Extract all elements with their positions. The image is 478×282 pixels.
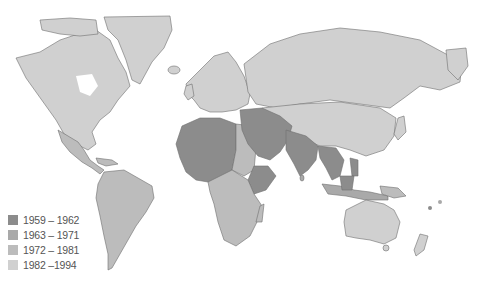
region-borneo (340, 176, 354, 190)
region-indonesia (322, 184, 388, 200)
legend-item-1959-1962: 1959 – 1962 (8, 212, 79, 227)
region-south-america (96, 170, 154, 270)
region-north-america (16, 30, 130, 150)
legend-swatch (8, 230, 18, 240)
legend-swatch (8, 245, 18, 255)
region-canada-arctic-islands (40, 18, 98, 36)
legend-label: 1959 – 1962 (23, 214, 79, 226)
legend-label: 1963 – 1971 (23, 229, 79, 241)
region-southeast-asia (318, 146, 344, 180)
region-sri-lanka (300, 175, 304, 181)
region-iceland (168, 66, 180, 74)
region-europe (186, 52, 250, 112)
region-russia (244, 28, 462, 108)
region-pacific-islands (428, 206, 432, 210)
region-tasmania (383, 245, 389, 251)
legend-swatch (8, 260, 18, 270)
region-new-zealand (414, 234, 428, 256)
legend-item-1982-1994: 1982 –1994 (8, 257, 79, 272)
region-caribbean (96, 158, 118, 166)
legend-label: 1972 – 1981 (23, 244, 79, 256)
legend: 1959 – 1962 1963 – 1971 1972 – 1981 1982… (8, 212, 79, 272)
region-philippines (350, 158, 358, 176)
legend-item-1972-1981: 1972 – 1981 (8, 242, 79, 257)
legend-swatch (8, 215, 18, 225)
region-australia (344, 200, 400, 244)
region-pacific-islands-2 (438, 200, 442, 204)
legend-label: 1982 –1994 (23, 259, 76, 271)
legend-item-1963-1971: 1963 – 1971 (8, 227, 79, 242)
